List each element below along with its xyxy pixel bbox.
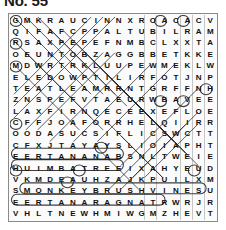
grid-cell[interactable]: M [90, 83, 101, 94]
grid-cell[interactable]: C [10, 140, 21, 151]
grid-cell[interactable]: E [56, 174, 67, 185]
grid-cell[interactable]: H [159, 163, 170, 174]
grid-cell[interactable]: G [113, 49, 124, 60]
grid-cell[interactable]: Q [159, 117, 170, 128]
grid-cell[interactable]: E [136, 106, 147, 117]
grid-cell[interactable]: X [124, 15, 135, 26]
grid-cell[interactable]: M [33, 174, 44, 185]
grid-cell[interactable]: E [67, 38, 78, 49]
grid-cell[interactable]: R [102, 83, 113, 94]
grid-cell[interactable]: V [10, 208, 21, 220]
grid-cell[interactable]: U [102, 61, 113, 72]
grid-cell[interactable]: R [33, 197, 44, 208]
grid-cell[interactable]: T [204, 129, 216, 140]
grid-cell[interactable]: N [90, 152, 101, 163]
grid-cell[interactable]: M [124, 38, 135, 49]
grid-cell[interactable]: C [79, 15, 90, 26]
grid-cell[interactable]: E [204, 95, 216, 106]
grid-cell[interactable]: B [159, 95, 170, 106]
grid-cell[interactable]: X [33, 106, 44, 117]
grid-cell[interactable]: N [44, 49, 55, 60]
grid-cell[interactable]: O [193, 106, 204, 117]
grid-cell[interactable]: M [44, 163, 55, 174]
grid-cell[interactable]: P [147, 174, 158, 185]
grid-cell[interactable]: R [102, 186, 113, 197]
grid-cell[interactable]: N [113, 38, 124, 49]
grid-cell[interactable]: E [56, 95, 67, 106]
grid-cell[interactable]: W [204, 61, 216, 72]
grid-cell[interactable]: L [21, 72, 32, 83]
grid-cell[interactable]: E [182, 208, 193, 220]
grid-cell[interactable]: Y [102, 140, 113, 151]
grid-cell[interactable]: C [147, 129, 158, 140]
grid-cell[interactable]: A [102, 197, 113, 208]
grid-cell[interactable]: E [102, 106, 113, 117]
grid-cell[interactable]: M [102, 208, 113, 220]
grid-cell[interactable]: F [33, 117, 44, 128]
grid-cell[interactable]: F [21, 140, 32, 151]
grid-cell[interactable]: I [159, 140, 170, 151]
grid-cell[interactable]: R [136, 72, 147, 83]
grid-cell[interactable]: U [21, 163, 32, 174]
grid-cell[interactable]: O [159, 72, 170, 83]
grid-cell[interactable]: E [136, 117, 147, 128]
grid-cell[interactable]: M [10, 61, 21, 72]
grid-cell[interactable]: O [21, 129, 32, 140]
grid-cell[interactable]: S [193, 186, 204, 197]
grid-cell[interactable]: E [136, 61, 147, 72]
grid-cell[interactable]: E [170, 61, 181, 72]
grid-cell[interactable]: G [147, 83, 158, 94]
grid-cell[interactable]: T [193, 129, 204, 140]
grid-cell[interactable]: A [182, 15, 193, 26]
grid-cell[interactable]: Z [10, 95, 21, 106]
grid-cell[interactable]: A [56, 152, 67, 163]
grid-cell[interactable]: U [33, 49, 44, 60]
grid-cell[interactable]: C [113, 106, 124, 117]
grid-cell[interactable]: A [136, 197, 147, 208]
grid-cell[interactable]: E [10, 72, 21, 83]
grid-cell[interactable]: T [90, 95, 101, 106]
grid-cell[interactable]: A [33, 83, 44, 94]
grid-cell[interactable]: E [67, 208, 78, 220]
grid-cell[interactable]: I [136, 140, 147, 151]
word-search-puzzle[interactable]: GMKRAUCINNXROACACVQIFAFCPPALTUBILRAMRSAX… [8, 13, 218, 222]
grid-cell[interactable]: S [10, 186, 21, 197]
grid-cell[interactable]: P [56, 38, 67, 49]
grid-cell[interactable]: U [67, 129, 78, 140]
grid-cell[interactable]: I [182, 117, 193, 128]
grid-cell[interactable]: T [193, 38, 204, 49]
grid-cell[interactable]: B [113, 152, 124, 163]
grid-cell[interactable]: S [159, 129, 170, 140]
grid-cell[interactable]: N [136, 152, 147, 163]
grid-cell[interactable]: I [90, 15, 101, 26]
grid-cell[interactable]: E [102, 163, 113, 174]
grid-cell[interactable]: N [67, 197, 78, 208]
grid-cell[interactable]: W [124, 208, 135, 220]
grid-cell[interactable]: B [147, 26, 158, 37]
grid-cell[interactable]: T [44, 83, 55, 94]
grid-cell[interactable]: L [124, 140, 135, 151]
grid-cell[interactable]: X [170, 38, 181, 49]
grid-cell[interactable]: P [124, 61, 135, 72]
grid-cell[interactable]: M [159, 61, 170, 72]
grid-cell[interactable]: K [21, 174, 32, 185]
grid-cell[interactable]: A [159, 15, 170, 26]
grid-cell[interactable]: P [90, 26, 101, 37]
grid-cell[interactable]: I [170, 117, 181, 128]
grid-cell[interactable]: A [193, 26, 204, 37]
grid-cell[interactable]: I [21, 26, 32, 37]
grid-cell[interactable]: Y [79, 140, 90, 151]
grid-cell[interactable]: A [170, 95, 181, 106]
grid-cell[interactable]: W [33, 61, 44, 72]
grid-cell[interactable]: G [113, 197, 124, 208]
grid-cell[interactable]: E [67, 83, 78, 94]
grid-cell[interactable]: K [136, 174, 147, 185]
grid-cell[interactable]: G [124, 49, 135, 60]
grid-cell[interactable]: R [67, 61, 78, 72]
grid-cell[interactable]: F [170, 83, 181, 94]
grid-cell[interactable]: X [44, 38, 55, 49]
grid-cell[interactable]: R [182, 26, 193, 37]
grid-cell[interactable]: T [90, 72, 101, 83]
grid-cell[interactable]: F [56, 26, 67, 37]
grid-cell[interactable]: W [170, 152, 181, 163]
